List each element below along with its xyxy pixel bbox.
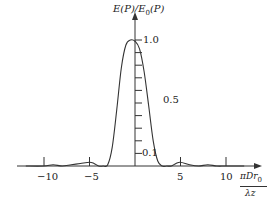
y-tick-label-1-0: 1.0 — [143, 34, 159, 45]
x-tick-label-5: 5 — [177, 171, 183, 182]
x-tick-label-10: 10 — [220, 171, 233, 182]
x-axis-title-denominator: λz — [245, 188, 255, 198]
x-axis-title-fraction-bar — [240, 186, 267, 187]
chart-figure: E(P)/E0(P) 1.0 0.5 0.1 −10 −5 5 10 πDr0 … — [0, 0, 277, 208]
x-axis-title-numerator: πDr0 — [240, 171, 262, 184]
y-axis-title: E(P)/E0(P) — [113, 3, 165, 17]
x-tick-label-minus-5: −5 — [84, 171, 99, 182]
y-tick-label-0-5: 0.5 — [163, 94, 179, 105]
x-axis-arrow-icon — [254, 163, 262, 169]
y-tick-label-0-1: 0.1 — [142, 147, 158, 158]
x-tick-label-minus-10: −10 — [37, 171, 58, 182]
